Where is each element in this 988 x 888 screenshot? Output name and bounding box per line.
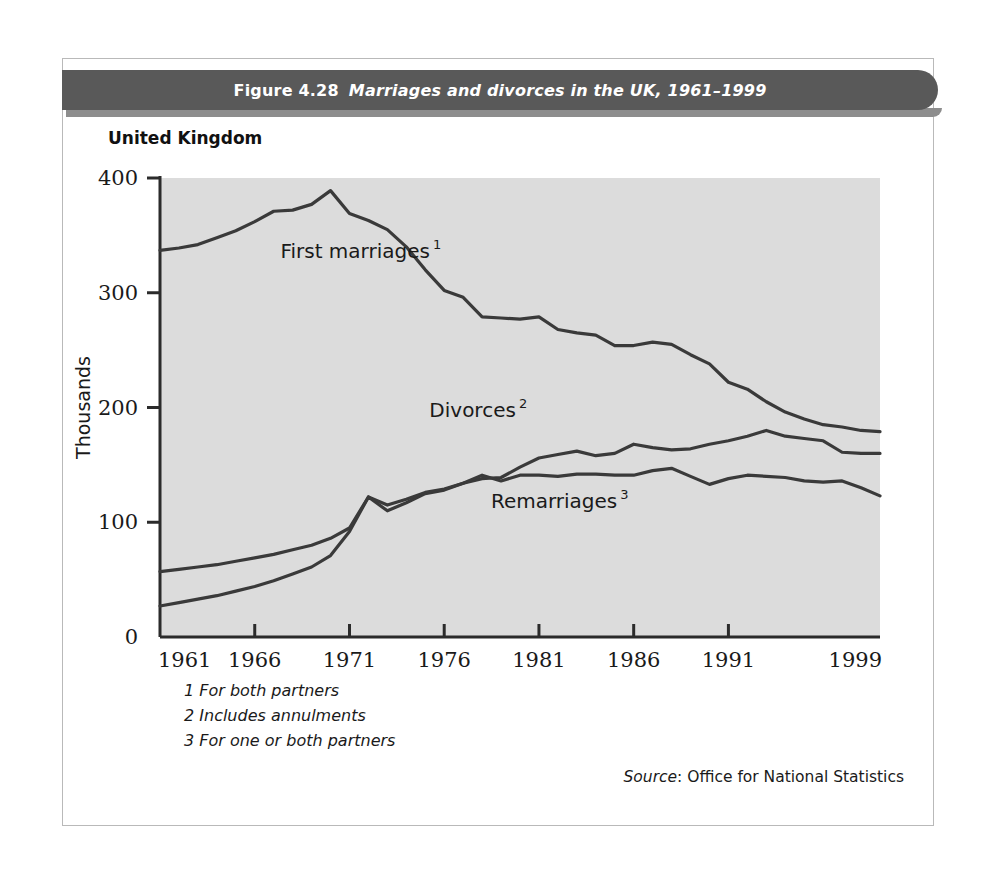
footnote-item: 3 For one or both partners xyxy=(184,728,395,753)
footnotes-list: 1 For both partners 2 Includes annulment… xyxy=(184,678,395,753)
series-label: Divorces2 xyxy=(429,396,527,422)
x-tick-label: 1976 xyxy=(417,648,470,672)
line-chart: 0100200300400 19611966197119761981198619… xyxy=(62,118,934,678)
figure-title-banner: Figure 4.28Marriages and divorces in the… xyxy=(62,70,938,110)
x-tick-label: 1981 xyxy=(512,648,565,672)
series-label-text: Divorces xyxy=(429,398,516,422)
series-label-text: First marriages xyxy=(280,239,430,263)
figure-title-text: Figure 4.28Marriages and divorces in the… xyxy=(234,81,767,100)
source-line: Source: Office for National Statistics xyxy=(623,768,904,786)
series-label-superscript: 3 xyxy=(620,487,628,502)
figure-title: Marriages and divorces in the UK, 1961–1… xyxy=(349,81,767,100)
x-tick-label: 1966 xyxy=(228,648,281,672)
y-tick-label: 100 xyxy=(98,510,138,534)
y-axis-title: Thousands xyxy=(72,356,94,460)
x-tick-label: 1991 xyxy=(702,648,755,672)
chart-svg-wrapper: 0100200300400 19611966197119761981198619… xyxy=(62,118,934,682)
footnote-item: 1 For both partners xyxy=(184,678,395,703)
figure-number: Figure 4.28 xyxy=(234,81,339,100)
y-tick-label: 300 xyxy=(98,281,138,305)
page-root: Figure 4.28Marriages and divorces in the… xyxy=(0,0,988,888)
y-axis: 0100200300400 xyxy=(98,166,160,649)
y-tick-label: 200 xyxy=(98,396,138,420)
x-tick-label: 1961 xyxy=(158,648,211,672)
series-label-superscript: 2 xyxy=(519,396,527,411)
x-tick-label: 1999 xyxy=(829,648,882,672)
series-label: Remarriages3 xyxy=(491,487,629,513)
y-tick-label: 0 xyxy=(125,625,138,649)
footnote-item: 2 Includes annulments xyxy=(184,703,395,728)
x-tick-label: 1971 xyxy=(323,648,376,672)
chart-region: United Kingdom 0100200300400 19611966197… xyxy=(62,118,934,826)
series-label-text: Remarriages xyxy=(491,489,617,513)
source-text: : Office for National Statistics xyxy=(677,768,904,786)
series-label: First marriages1 xyxy=(280,237,441,263)
source-word: Source xyxy=(623,768,677,786)
x-tick-label: 1986 xyxy=(607,648,660,672)
y-tick-label: 400 xyxy=(98,166,138,190)
series-label-superscript: 1 xyxy=(433,237,441,252)
